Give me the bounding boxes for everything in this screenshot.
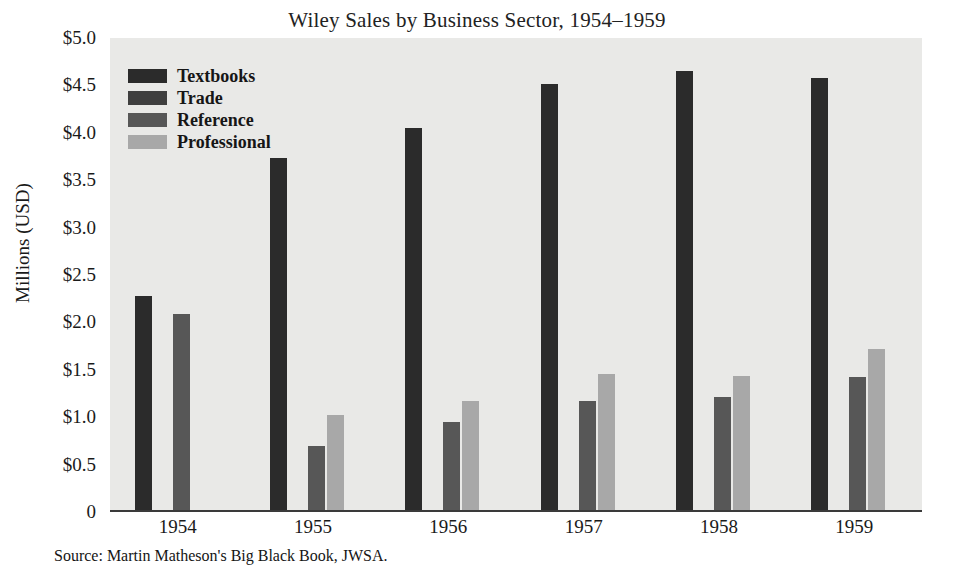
y-tick-label: $1.0 <box>63 406 96 428</box>
y-tick-label: $5.0 <box>63 27 96 49</box>
bar-textbooks-1954[interactable] <box>135 296 152 512</box>
bar-reference-1958[interactable] <box>714 397 731 512</box>
x-axis-line <box>110 510 922 512</box>
bar-reference-1954[interactable] <box>173 314 190 512</box>
x-tick-label-1958: 1958 <box>700 516 738 538</box>
chart-figure: Wiley Sales by Business Sector, 1954–195… <box>0 0 954 568</box>
bar-textbooks-1955[interactable] <box>270 158 287 512</box>
chart-title: Wiley Sales by Business Sector, 1954–195… <box>0 8 954 33</box>
bar-reference-1959[interactable] <box>849 377 866 512</box>
bar-reference-1956[interactable] <box>443 422 460 512</box>
plot-area: TextbooksTradeReferenceProfessional <box>110 38 922 512</box>
x-tick-label-1959: 1959 <box>835 516 873 538</box>
plot-inner: TextbooksTradeReferenceProfessional <box>110 38 922 512</box>
y-tick-label: $4.0 <box>63 122 96 144</box>
bar-professional-1958[interactable] <box>733 376 750 512</box>
y-tick-label: $3.5 <box>63 169 96 191</box>
y-tick-label: $1.5 <box>63 359 96 381</box>
bar-professional-1959[interactable] <box>868 349 885 512</box>
x-axis-tick-labels: 195419551956195719581959 <box>110 516 922 546</box>
y-tick-label: 0 <box>87 501 97 523</box>
bar-textbooks-1956[interactable] <box>405 128 422 512</box>
bar-reference-1957[interactable] <box>579 401 596 512</box>
bar-group-1959 <box>811 38 885 512</box>
bar-group-1954 <box>135 38 209 512</box>
bar-professional-1957[interactable] <box>598 374 615 512</box>
y-tick-label: $3.0 <box>63 217 96 239</box>
x-tick-label-1957: 1957 <box>565 516 603 538</box>
bar-group-1956 <box>405 38 479 512</box>
y-tick-label: $2.5 <box>63 264 96 286</box>
x-tick-label-1955: 1955 <box>294 516 332 538</box>
bar-reference-1955[interactable] <box>308 446 325 512</box>
bar-group-1955 <box>270 38 344 512</box>
x-tick-label-1956: 1956 <box>429 516 467 538</box>
y-tick-label: $2.0 <box>63 311 96 333</box>
bar-textbooks-1957[interactable] <box>541 84 558 512</box>
y-tick-label: $4.5 <box>63 74 96 96</box>
bar-textbooks-1959[interactable] <box>811 78 828 512</box>
bar-textbooks-1958[interactable] <box>676 71 693 512</box>
bar-professional-1955[interactable] <box>327 415 344 512</box>
bar-group-1957 <box>541 38 615 512</box>
source-note: Source: Martin Matheson's Big Black Book… <box>54 547 388 565</box>
bar-group-1958 <box>676 38 750 512</box>
x-tick-label-1954: 1954 <box>159 516 197 538</box>
y-axis-tick-labels: $5.0$4.5$4.0$3.5$3.0$2.5$2.0$1.5$1.0$0.5… <box>0 38 104 512</box>
y-tick-label: $0.5 <box>63 454 96 476</box>
bar-professional-1956[interactable] <box>462 401 479 512</box>
